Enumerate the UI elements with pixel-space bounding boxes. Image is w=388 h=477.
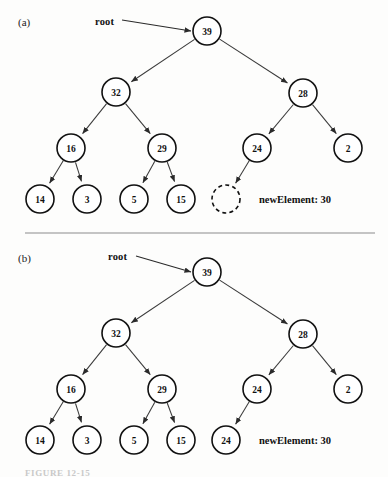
panel-a-node-14[interactable]: 14 [26,185,54,213]
node-value: 15 [176,436,186,446]
panel-a-node-29[interactable]: 29 [148,134,176,162]
panel-b-root-pointer-arrow [136,256,191,272]
panel-b-node-15[interactable]: 15 [167,426,195,454]
node-value: 28 [298,89,308,99]
node-value: 32 [111,88,121,98]
figure-container: 3932281629242143515393228162924214351524… [0,0,388,477]
node-value: 3 [85,195,90,205]
panel-a-edge-node-28-to-node-2 [312,105,336,134]
panel-b-node-32[interactable]: 32 [102,319,130,347]
panel-a-node-32[interactable]: 32 [102,78,130,106]
panel-b-edge-node-28-to-node-2 [312,346,336,375]
panel-b-edge-node-29-to-node-5 [143,402,155,424]
panel-b-node-2[interactable]: 2 [334,375,362,403]
panel-b-label: (b) [18,252,31,264]
panel-a-node-28[interactable]: 28 [289,79,317,107]
panel-b-node-29[interactable]: 29 [148,375,176,403]
node-value: 39 [202,27,212,37]
node-circle [212,185,240,213]
node-value: 2 [346,144,351,154]
panel-b-edge-node-24-to-node-24b [236,402,250,424]
panel-a-node-39[interactable]: 39 [193,17,221,45]
panel-b-edge-node-32-to-node-16 [83,345,107,375]
panel-a-edge-node-29-to-node-15 [167,162,174,182]
panel-b-edge-node-29-to-node-15 [167,403,174,423]
panel-a-node-3[interactable]: 3 [73,185,101,213]
panel-b-new-element-label: newElement: 30 [259,435,331,446]
panel-a-node-15[interactable]: 15 [167,185,195,213]
panel-b-node-3[interactable]: 3 [73,426,101,454]
node-value: 29 [157,385,167,395]
figure-caption: FIGURE 12-15 [25,468,90,477]
panel-a-new-element-label: newElement: 30 [259,194,331,205]
panel-a-root-label: root [95,16,114,27]
node-value: 32 [111,329,121,339]
panel-a-edge-node-39-to-node-28 [220,39,288,83]
panel-b-root-label: root [108,251,127,262]
panel-b-edge-node-32-to-node-29 [126,345,151,375]
panel-b-edge-node-16-to-node-14 [50,402,64,424]
panel-a-edge-node-29-to-node-5 [143,161,155,183]
panel-b-edge-node-39-to-node-28 [220,280,288,324]
panel-b-edge-node-28-to-node-24 [269,346,294,375]
node-value: 5 [132,195,137,205]
panel-a-edge-node-24-to-node-empty [236,161,250,183]
panel-a-node-24[interactable]: 24 [243,134,271,162]
panel-a-edge-node-39-to-node-32 [131,39,194,81]
node-value: 14 [35,436,45,446]
node-value: 24 [252,385,262,395]
node-value: 14 [35,195,45,205]
node-value: 15 [176,195,186,205]
panel-a-node-16[interactable]: 16 [57,134,85,162]
node-value: 28 [298,330,308,340]
edges-layer [50,20,337,424]
panel-a-label: (a) [18,16,30,28]
panel-b-node-14[interactable]: 14 [26,426,54,454]
panel-b-node-16[interactable]: 16 [57,375,85,403]
panel-b-node-28[interactable]: 28 [289,320,317,348]
binary-tree-diagram: 3932281629242143515393228162924214351524 [0,0,388,477]
panel-a-root-pointer-arrow [122,20,191,31]
node-value: 24 [252,144,262,154]
panel-a-edge-node-16-to-node-14 [50,161,64,183]
nodes-layer: 3932281629242143515393228162924214351524 [26,17,362,454]
panel-b-node-24[interactable]: 24 [243,375,271,403]
panel-a-node-2[interactable]: 2 [334,134,362,162]
node-value: 5 [132,436,137,446]
panel-a-edge-node-32-to-node-29 [126,104,151,134]
panel-b-node-39[interactable]: 39 [193,258,221,286]
panel-a-edge-node-16-to-node-3 [75,162,81,181]
node-value: 24 [221,436,231,446]
node-value: 16 [66,385,76,395]
node-value: 16 [66,144,76,154]
panel-b-edge-node-16-to-node-3 [75,403,81,422]
node-value: 29 [157,144,167,154]
node-value: 3 [85,436,90,446]
node-value: 39 [202,268,212,278]
node-value: 2 [346,385,351,395]
panel-b-node-5[interactable]: 5 [120,426,148,454]
panel-a-node-empty[interactable] [212,185,240,213]
panel-a-edge-node-32-to-node-16 [83,104,107,134]
panel-a-edge-node-28-to-node-24 [269,105,294,134]
panel-b-node-24b[interactable]: 24 [212,426,240,454]
panel-b-edge-node-39-to-node-32 [131,280,194,322]
panel-a-node-5[interactable]: 5 [120,185,148,213]
